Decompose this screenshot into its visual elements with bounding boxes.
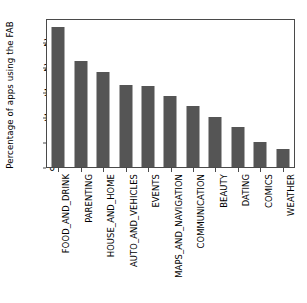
bar-slot [92, 20, 114, 167]
bar [186, 106, 199, 167]
x-axis-tick-mark [126, 168, 127, 172]
x-axis-tick-label: COMMUNICATION [196, 174, 206, 248]
bar [52, 27, 65, 167]
bar-slot [137, 20, 159, 167]
bar-slot [182, 20, 204, 167]
x-axis-tick-mark [283, 168, 284, 172]
bar-slot [159, 20, 181, 167]
bar-series [47, 20, 294, 167]
x-axis-tick-label: BEAUTY [219, 174, 229, 208]
y-axis-title: Percentage of apps using the FAB [5, 21, 15, 168]
x-axis-tick-label: HOUSE_AND_HOME [106, 174, 116, 257]
bar-slot [249, 20, 271, 167]
x-axis-tick-label: COMICS [264, 174, 274, 208]
x-axis-tick-label: FOOD_AND_DRINK [61, 174, 71, 253]
bar-slot [204, 20, 226, 167]
bar-slot [114, 20, 136, 167]
bar-slot [69, 20, 91, 167]
bar [231, 127, 244, 167]
x-axis-tick-mark [171, 168, 172, 172]
y-axis-title-container: Percentage of apps using the FAB [0, 0, 20, 190]
bar-slot [47, 20, 69, 167]
bar [142, 86, 155, 167]
x-axis-tick-mark [103, 168, 104, 172]
bar-slot [227, 20, 249, 167]
bar [97, 72, 110, 167]
bar [164, 96, 177, 167]
x-axis-tick-mark [193, 168, 194, 172]
bar-slot [272, 20, 294, 167]
bar [119, 85, 132, 167]
x-axis-tick-label: WEATHER [286, 174, 296, 216]
bar [74, 61, 87, 167]
x-axis-tick-label: EVENTS [151, 174, 161, 208]
x-axis-tick-label: DATING [241, 174, 251, 206]
bar [276, 149, 289, 167]
bar-chart-figure: Percentage of apps using the FAB 0510152… [0, 0, 307, 303]
x-axis-tick-mark [58, 168, 59, 172]
x-axis-tick-mark [260, 168, 261, 172]
x-axis-tick-mark [238, 168, 239, 172]
x-axis-tick-label: AUTO_AND_VEHICLES [129, 174, 139, 267]
bar [209, 117, 222, 167]
x-axis-tick-mark [215, 168, 216, 172]
x-axis-tick-mark [81, 168, 82, 172]
x-axis-tick-mark [148, 168, 149, 172]
bar [254, 142, 267, 167]
x-axis-tick-label: PARENTING [84, 174, 94, 223]
x-axis-tick-label: MAPS_AND_NAVIGATION [174, 174, 184, 278]
